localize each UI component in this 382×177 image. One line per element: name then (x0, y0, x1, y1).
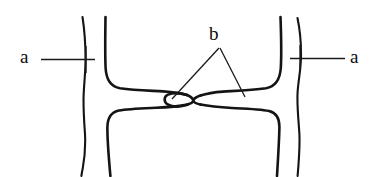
label-a-right: a (350, 47, 358, 66)
line-diagram-svg (0, 0, 382, 177)
figure-background (0, 0, 382, 177)
label-a-left: a (20, 47, 28, 66)
label-b-center: b (209, 24, 219, 43)
figure-root: a b a (0, 0, 382, 177)
